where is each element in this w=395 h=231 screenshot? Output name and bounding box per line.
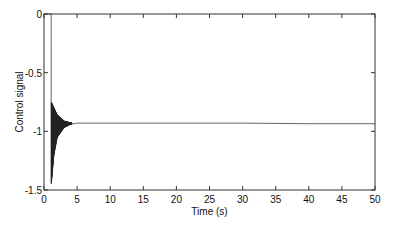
y-axis-ticks: 0-0.5-1-1.5 (25, 9, 375, 196)
control-signal-line (44, 14, 375, 184)
x-tick-label: 45 (336, 194, 348, 205)
x-tick-label: 15 (138, 194, 150, 205)
x-tick-label: 40 (303, 194, 315, 205)
y-tick-label: -0.5 (25, 68, 43, 79)
x-axis-ticks: 05101520253035404550 (41, 14, 381, 205)
y-tick-label: -1.5 (25, 185, 43, 196)
x-axis-label: Time (s) (191, 206, 227, 217)
y-tick-label: 0 (36, 9, 42, 20)
x-tick-label: 20 (171, 194, 183, 205)
y-axis-label: Control signal (14, 71, 25, 132)
x-tick-label: 0 (41, 194, 47, 205)
x-tick-label: 10 (105, 194, 117, 205)
signal-path (44, 14, 375, 184)
x-tick-label: 5 (74, 194, 80, 205)
axes-frame (44, 14, 375, 190)
y-tick-label: -1 (33, 126, 42, 137)
chart: 05101520253035404550 0-0.5-1-1.5 Time (s… (0, 0, 395, 231)
x-tick-label: 50 (369, 194, 381, 205)
x-tick-label: 35 (270, 194, 282, 205)
x-tick-label: 30 (237, 194, 249, 205)
x-tick-label: 25 (204, 194, 216, 205)
